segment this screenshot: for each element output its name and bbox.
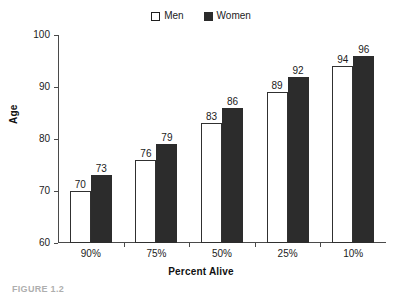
legend-swatch-women-icon bbox=[204, 12, 213, 21]
bar-value-label: 70 bbox=[75, 180, 86, 190]
chart-legend: Men Women bbox=[0, 11, 402, 21]
bar-group: 707390% bbox=[70, 35, 112, 243]
legend-label-women: Women bbox=[217, 11, 251, 21]
x-tick-label: 50% bbox=[212, 249, 232, 259]
y-tick: 60 bbox=[54, 243, 58, 244]
bar-group: 949610% bbox=[332, 35, 374, 243]
bar-value-label: 83 bbox=[206, 112, 217, 122]
x-tick-label: 25% bbox=[278, 249, 298, 259]
y-axis-title: Age bbox=[8, 105, 19, 125]
bar-group: 838650% bbox=[201, 35, 243, 243]
bar-group: 899225% bbox=[267, 35, 309, 243]
legend-item-men: Men bbox=[151, 11, 183, 21]
y-tick: 100 bbox=[54, 35, 58, 36]
bar-men-10pct[interactable]: 94 bbox=[332, 66, 353, 243]
y-tick: 90 bbox=[54, 87, 58, 88]
bar-women-75pct[interactable]: 79 bbox=[156, 144, 177, 243]
y-tick-label: 70 bbox=[39, 185, 50, 196]
x-tick bbox=[255, 243, 256, 247]
bar-value-label: 79 bbox=[161, 133, 172, 143]
x-tick bbox=[189, 243, 190, 247]
x-tick-label: 10% bbox=[343, 249, 363, 259]
x-tick-label: 90% bbox=[81, 249, 101, 259]
y-tick-label: 100 bbox=[33, 29, 50, 40]
bar-men-75pct[interactable]: 76 bbox=[135, 160, 156, 243]
bar-women-25pct[interactable]: 92 bbox=[288, 77, 309, 243]
bar-value-label: 94 bbox=[337, 55, 348, 65]
legend-item-women: Women bbox=[204, 11, 251, 21]
bar-men-25pct[interactable]: 89 bbox=[267, 92, 288, 243]
figure-container: Men Women Age 60708090100 707390%767975%… bbox=[0, 0, 402, 294]
y-tick: 70 bbox=[54, 191, 58, 192]
x-tick bbox=[320, 243, 321, 247]
figure-caption: FIGURE 1.2 bbox=[12, 284, 64, 294]
y-axis-line bbox=[58, 35, 59, 243]
bar-value-label: 89 bbox=[272, 81, 283, 91]
plot-area: 60708090100 707390%767975%838650%899225%… bbox=[58, 35, 386, 243]
legend-label-men: Men bbox=[164, 11, 183, 21]
y-tick-label: 80 bbox=[39, 133, 50, 144]
y-tick: 80 bbox=[54, 139, 58, 140]
bar-women-10pct[interactable]: 96 bbox=[353, 56, 374, 243]
x-axis-title: Percent Alive bbox=[0, 266, 402, 277]
bar-group: 767975% bbox=[135, 35, 177, 243]
bar-value-label: 73 bbox=[96, 164, 107, 174]
x-tick bbox=[124, 243, 125, 247]
y-tick-label: 90 bbox=[39, 81, 50, 92]
bar-women-90pct[interactable]: 73 bbox=[91, 175, 112, 243]
y-tick-label: 60 bbox=[39, 237, 50, 248]
bar-women-50pct[interactable]: 86 bbox=[222, 108, 243, 243]
bar-men-50pct[interactable]: 83 bbox=[201, 123, 222, 243]
bar-value-label: 96 bbox=[358, 45, 369, 55]
legend-swatch-men-icon bbox=[151, 12, 160, 21]
x-tick-label: 75% bbox=[146, 249, 166, 259]
bar-men-90pct[interactable]: 70 bbox=[70, 191, 91, 243]
bar-value-label: 86 bbox=[227, 97, 238, 107]
bar-value-label: 92 bbox=[293, 66, 304, 76]
bar-value-label: 76 bbox=[140, 149, 151, 159]
